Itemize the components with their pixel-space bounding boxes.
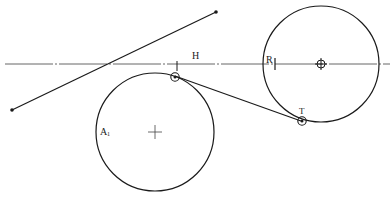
left-circle-center-cross-icon [148, 125, 162, 139]
label-a-subscript: 1 [107, 131, 110, 137]
segment-endpoint-lower [10, 108, 14, 112]
segment-endpoint-upper [214, 10, 218, 14]
diagonal-segment [12, 12, 216, 110]
label-h: H [192, 50, 199, 61]
tangent-point-t-marker-icon [298, 117, 306, 125]
diagram-canvas: A 1 H R T [0, 0, 390, 199]
right-circle-center-target-icon [315, 58, 327, 70]
label-t: T [299, 106, 305, 116]
label-r: R [266, 54, 273, 65]
tangent-line [175, 76, 301, 121]
